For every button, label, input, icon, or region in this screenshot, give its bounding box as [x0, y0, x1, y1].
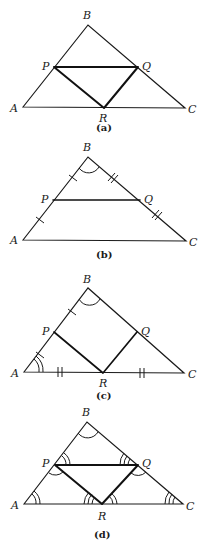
geometry-figures: B A C P Q R (a) B A C P Q (b)	[0, 0, 208, 545]
vertex-label-c: C	[189, 236, 198, 249]
vertex-label-q: Q	[142, 60, 151, 73]
vertex-label-r: R	[97, 510, 106, 523]
vertex-label-b: B	[82, 141, 91, 154]
figure-d: B A C P Q R (d)	[10, 406, 195, 540]
caption-b: (b)	[96, 249, 112, 260]
angle-arc-q-upper-3	[120, 453, 124, 465]
vertex-label-b: B	[82, 273, 91, 286]
caption-c: (c)	[96, 390, 112, 401]
angle-arc-b	[79, 167, 99, 173]
vertex-label-c: C	[188, 103, 197, 116]
angle-arc-b	[78, 432, 98, 438]
vertex-label-p: P	[41, 325, 50, 338]
angle-arc-c-3	[165, 492, 169, 504]
angle-arc-q-lower	[131, 472, 146, 475]
vertex-label-q: Q	[141, 325, 150, 338]
vertex-label-q: Q	[144, 193, 153, 206]
vertex-label-b: B	[81, 406, 90, 419]
vertex-label-a: A	[9, 234, 18, 247]
angle-arc-c-2	[169, 494, 172, 504]
figure-b: B A C P Q (b)	[9, 141, 198, 260]
vertex-label-c: C	[188, 368, 197, 381]
vertex-label-a: A	[9, 102, 18, 115]
figure-c: B A C P Q R (c)	[10, 273, 197, 401]
segments-pr-qr	[54, 332, 137, 373]
caption-a: (a)	[96, 122, 112, 133]
vertex-label-b: B	[82, 9, 91, 22]
angle-arc-b	[79, 299, 100, 305]
angle-arc-q-upper-2	[124, 456, 127, 465]
angle-arc-p-upper-1	[62, 456, 66, 465]
angle-arc-r-right-1	[109, 496, 113, 504]
caption-d: (d)	[94, 529, 110, 540]
vertex-label-p: P	[40, 193, 49, 206]
angle-arc-c-1	[173, 497, 175, 504]
vertex-label-p: P	[41, 60, 50, 73]
vertex-label-a: A	[10, 367, 19, 380]
vertex-label-q: Q	[142, 457, 151, 470]
angle-arc-p-lower	[49, 472, 63, 475]
angle-arc-a-1	[34, 359, 39, 372]
angle-arc-a-1	[32, 494, 36, 504]
vertex-label-c: C	[186, 500, 195, 513]
angle-arc-r-left-1	[92, 497, 95, 504]
triangle-pqr	[54, 67, 138, 108]
vertex-label-p: P	[41, 457, 50, 470]
figure-a: B A C P Q R (a)	[9, 9, 197, 133]
triangle-pqr	[55, 465, 138, 504]
vertex-label-r: R	[98, 377, 107, 390]
vertex-label-a: A	[10, 499, 19, 512]
